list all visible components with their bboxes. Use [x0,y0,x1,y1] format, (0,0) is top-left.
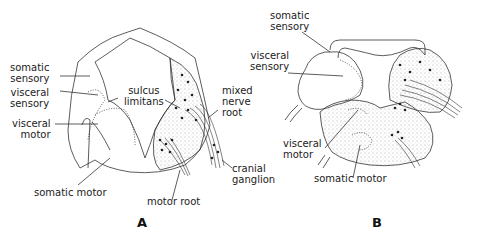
label-a-cranial-ganglion: cranial ganglion [232,163,275,185]
label-a-visceral-motor: visceral motor [12,118,51,140]
label-b-visceral-motor: visceral motor [283,138,322,160]
label-b-somatic-motor: somatic motor [314,173,387,184]
label-b-somatic-sensory: somatic sensory [270,10,309,32]
label-a-sulcus-limitans: sulcus limitans [124,85,164,107]
label-a-visceral-sensory: visceral sensory [10,87,49,109]
panel-label-a: A [137,215,147,230]
label-a-somatic-motor: somatic motor [34,187,107,198]
panel-label-b: B [372,215,382,230]
label-a-motor-root: motor root [147,196,200,207]
label-a-mixed-nerve-root: mixed nerve root [222,85,253,118]
panel-a-drawing [55,28,232,200]
label-b-visceral-sensory: visceral sensory [250,50,289,72]
label-a-somatic-sensory: somatic sensory [10,62,49,84]
